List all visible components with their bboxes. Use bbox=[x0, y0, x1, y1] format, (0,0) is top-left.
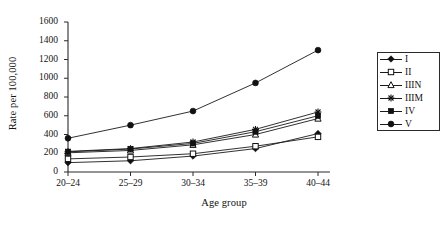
y-tick-label: 400 bbox=[18, 129, 58, 139]
data-point bbox=[253, 144, 258, 149]
y-tick-label: 200 bbox=[18, 147, 58, 157]
data-point bbox=[65, 135, 71, 141]
y-tick-label: 1200 bbox=[18, 54, 58, 64]
data-point bbox=[128, 146, 133, 151]
data-point bbox=[253, 129, 258, 134]
data-point bbox=[190, 151, 195, 156]
series-v bbox=[65, 47, 321, 141]
legend-label-v: V bbox=[402, 118, 412, 131]
data-series-group bbox=[65, 47, 322, 166]
legend-marker-i bbox=[380, 53, 402, 66]
x-tick-label: 35–39 bbox=[226, 178, 286, 188]
x-tick-label: 40–44 bbox=[288, 178, 348, 188]
y-tick-label: 600 bbox=[18, 110, 58, 120]
y-tick-label: 0 bbox=[18, 166, 58, 176]
legend-marker-v bbox=[380, 118, 402, 131]
data-point bbox=[128, 122, 134, 128]
data-point bbox=[128, 154, 133, 159]
legend-item: IIIM bbox=[378, 92, 439, 105]
data-point bbox=[253, 80, 259, 86]
data-point bbox=[315, 47, 321, 53]
x-tick-label: 30–34 bbox=[163, 178, 223, 188]
y-tick-label: 800 bbox=[18, 91, 58, 101]
series-iv bbox=[65, 113, 320, 154]
legend-marker-iiim bbox=[380, 92, 402, 105]
legend-label-i: I bbox=[402, 53, 408, 66]
y-tick-label: 1600 bbox=[18, 16, 58, 26]
y-tick-label: 1000 bbox=[18, 72, 58, 82]
legend-item: I bbox=[378, 53, 439, 66]
legend-marker-iiin bbox=[380, 79, 402, 92]
chart-legend: I II IIIN IIIM bbox=[377, 52, 440, 131]
data-point bbox=[65, 149, 70, 154]
legend-marker-iv bbox=[380, 105, 402, 118]
y-tick-label: 1400 bbox=[18, 35, 58, 45]
legend-item: V bbox=[378, 118, 439, 131]
legend-item: IV bbox=[378, 105, 439, 118]
data-point bbox=[315, 113, 320, 118]
data-point bbox=[65, 156, 70, 161]
data-point bbox=[190, 108, 196, 114]
figure-caption bbox=[8, 214, 440, 224]
chart-figure: Rate per 100,000 Age group 0200400600800… bbox=[0, 0, 448, 226]
x-axis-title: Age group bbox=[0, 197, 448, 208]
y-axis-title: Rate per 100,000 bbox=[7, 29, 18, 159]
legend-label-ii: II bbox=[402, 66, 411, 79]
legend-label-iv: IV bbox=[402, 105, 415, 118]
legend-label-iiin: IIIN bbox=[402, 79, 421, 92]
x-tick-label: 25–29 bbox=[101, 178, 161, 188]
data-point bbox=[190, 141, 195, 146]
data-point bbox=[315, 134, 320, 139]
legend-marker-ii bbox=[380, 66, 402, 79]
series-i bbox=[65, 130, 321, 165]
legend-item: II bbox=[378, 66, 439, 79]
legend-item: IIIN bbox=[378, 79, 439, 92]
x-tick-label: 20–24 bbox=[38, 178, 98, 188]
legend-label-iiim: IIIM bbox=[402, 92, 423, 105]
